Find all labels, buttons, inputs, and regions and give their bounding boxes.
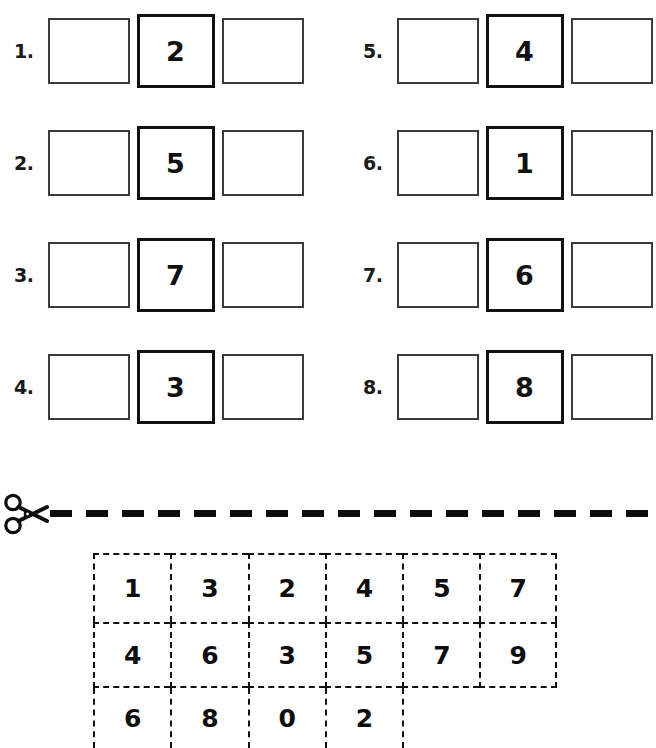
answer-box-before[interactable]	[397, 18, 479, 84]
answer-box-after[interactable]	[571, 18, 653, 84]
answer-boxes: 8	[393, 350, 656, 424]
answer-box-before[interactable]	[48, 130, 130, 196]
answer-box-after[interactable]	[222, 242, 304, 308]
answer-box-before[interactable]	[48, 242, 130, 308]
answer-boxes: 6	[393, 238, 656, 312]
given-number-box: 1	[486, 126, 564, 200]
given-number-box: 8	[486, 350, 564, 424]
number-tile[interactable]: 3	[170, 553, 247, 622]
number-tile[interactable]: 2	[248, 553, 325, 622]
cut-line-area	[0, 486, 652, 542]
answer-box-after[interactable]	[222, 354, 304, 420]
number-tile[interactable]: 8	[170, 688, 247, 748]
answer-box-after[interactable]	[571, 130, 653, 196]
number-tile[interactable]: 7	[402, 622, 479, 688]
given-number-box: 7	[137, 238, 215, 312]
given-number-box: 2	[137, 14, 215, 88]
problem-row: 6. 1	[363, 124, 656, 202]
answer-boxes: 1	[393, 126, 656, 200]
number-tile[interactable]: 9	[479, 622, 556, 688]
given-number-box: 5	[137, 126, 215, 200]
problem-number: 3.	[14, 264, 44, 286]
problems-section: 1. 2 2. 5 3. 7 4. 3 5.	[0, 0, 652, 430]
scissors-icon	[2, 488, 54, 540]
number-tile[interactable]: 3	[248, 622, 325, 688]
problem-number: 2.	[14, 152, 44, 174]
number-tile[interactable]: 6	[93, 688, 170, 748]
problem-number: 1.	[14, 40, 44, 62]
problem-number: 5.	[363, 40, 393, 62]
answer-box-after[interactable]	[571, 242, 653, 308]
answer-box-after[interactable]	[222, 18, 304, 84]
given-number-box: 3	[137, 350, 215, 424]
number-tile[interactable]: 5	[402, 553, 479, 622]
dashed-cut-line	[50, 510, 652, 517]
problem-number: 7.	[363, 264, 393, 286]
number-tile[interactable]: 7	[479, 553, 556, 622]
answer-boxes: 4	[393, 14, 656, 88]
problem-row: 7. 6	[363, 236, 656, 314]
answer-box-before[interactable]	[397, 242, 479, 308]
answer-boxes: 5	[44, 126, 307, 200]
number-tile[interactable]: 1	[93, 553, 170, 622]
number-tile[interactable]: 6	[170, 622, 247, 688]
problem-row: 2. 5	[14, 124, 307, 202]
answer-box-before[interactable]	[48, 18, 130, 84]
answer-boxes: 7	[44, 238, 307, 312]
number-tile-empty	[402, 688, 479, 748]
number-tile[interactable]: 4	[325, 553, 402, 622]
grid-row: 6 8 0 2	[93, 688, 557, 748]
problem-row: 1. 2	[14, 12, 307, 90]
problem-row: 5. 4	[363, 12, 656, 90]
problem-row: 3. 7	[14, 236, 307, 314]
answer-box-before[interactable]	[397, 354, 479, 420]
cutout-number-grid: 1 3 2 4 5 7 4 6 3 5 7 9 6 8 0 2	[93, 553, 557, 748]
number-tile[interactable]: 0	[248, 688, 325, 748]
answer-box-before[interactable]	[48, 354, 130, 420]
problem-row: 8. 8	[363, 348, 656, 426]
answer-boxes: 3	[44, 350, 307, 424]
problem-number: 8.	[363, 376, 393, 398]
given-number-box: 4	[486, 14, 564, 88]
number-tile[interactable]: 2	[325, 688, 402, 748]
grid-row: 1 3 2 4 5 7	[93, 553, 557, 622]
problem-number: 6.	[363, 152, 393, 174]
number-tile[interactable]: 4	[93, 622, 170, 688]
grid-row: 4 6 3 5 7 9	[93, 622, 557, 688]
answer-boxes: 2	[44, 14, 307, 88]
given-number-box: 6	[486, 238, 564, 312]
problem-number: 4.	[14, 376, 44, 398]
number-tile[interactable]: 5	[325, 622, 402, 688]
answer-box-before[interactable]	[397, 130, 479, 196]
problem-row: 4. 3	[14, 348, 307, 426]
answer-box-after[interactable]	[571, 354, 653, 420]
answer-box-after[interactable]	[222, 130, 304, 196]
